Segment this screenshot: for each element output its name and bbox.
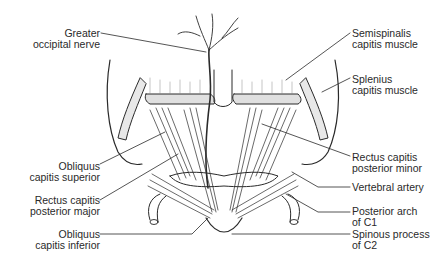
spinous-process-c2 [206,218,242,232]
leader-splenius [322,78,350,92]
rectus-major-left [184,108,218,212]
greater-occipital-nerve-path [206,50,211,188]
semispinalis-cut-right [233,94,301,104]
label-obliquus-capitis-inferior: Obliquus capitis inferior [35,229,100,251]
leader-obliquus-superior [100,132,165,164]
splenius-cut-right [300,78,328,140]
label-line: occipital nerve [33,39,100,50]
label-spinous-process-of-c2: Spinous process of C2 [352,229,430,251]
splenius-cut-left [118,78,146,140]
label-semispinalis-capitis-muscle: Semispinalis capitis muscle [352,28,418,50]
rectus-major-right [230,108,262,212]
obliquus-inferior-right [232,174,298,218]
skull-outline-left [107,60,142,165]
label-line: Vertebral artery [352,182,424,193]
vertebral-artery-right [282,194,300,222]
label-vertebral-artery: Vertebral artery [352,182,424,193]
leader-greater-occipital-nerve [101,33,206,52]
obliquus-superior-right [250,108,296,180]
label-posterior-arch-of-c1: Posterior arch of C1 [352,206,417,228]
nuchal-ligament [214,70,232,107]
leader-posterior-arch [286,194,350,212]
leader-vertebral-artery [292,172,350,187]
label-line: capitis inferior [35,240,100,251]
label-line: of C2 [352,240,430,251]
label-obliquus-capitis-superior: Obliquus capitis superior [29,161,100,183]
label-rectus-capitis-posterior-major: Rectus capitis posterior major [30,195,100,217]
leader-semispinalis [286,33,350,80]
leader-rectus-minor [262,124,350,156]
label-rectus-capitis-posterior-minor: Rectus capitis posterior minor [352,152,422,174]
label-splenius-capitis-muscle: Splenius capitis muscle [352,74,418,96]
label-greater-occipital-nerve: Greater occipital nerve [33,28,100,50]
label-line: capitis muscle [352,85,418,96]
leader-rectus-major [100,154,178,200]
leader-obliquus-inferior [100,218,208,234]
label-line: capitis muscle [352,39,418,50]
semispinalis-cut-left [145,94,215,104]
obliquus-superior-left [150,108,196,180]
label-line: of C1 [352,217,417,228]
label-line: posterior major [30,206,100,217]
label-line: posterior minor [352,163,422,174]
vertebral-artery-left [148,194,166,222]
label-line: capitis superior [29,172,100,183]
